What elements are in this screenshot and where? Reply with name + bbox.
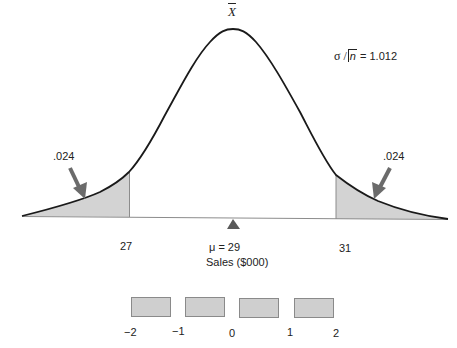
standard-error-annotation: σ /n = 1.012 (334, 49, 397, 64)
left-arrow-icon (70, 168, 87, 199)
tick-31: 31 (339, 242, 351, 254)
tick-mu: μ = 29 (209, 241, 240, 253)
left-tail-label: .024 (53, 150, 74, 162)
z-tick-neg2: −2 (124, 326, 137, 338)
x-axis-label: Sales ($000) (206, 256, 268, 268)
tick-27: 27 (120, 240, 132, 252)
z-box-2 (185, 297, 225, 317)
z-tick-0: 0 (229, 327, 235, 339)
root-n-label: n (348, 49, 357, 62)
xbar-title: X (228, 4, 236, 20)
z-tick-1: 1 (287, 326, 293, 338)
sigma-label: σ / (334, 49, 347, 63)
z-box-3 (239, 298, 279, 318)
standard-error-value: = 1.012 (360, 50, 397, 62)
z-box-1 (131, 297, 171, 317)
z-tick-neg1: −1 (172, 325, 185, 337)
xbar-symbol: X (228, 4, 236, 19)
right-tail-label: .024 (383, 150, 404, 162)
z-tick-2: 2 (333, 327, 339, 339)
mean-marker-icon (227, 219, 240, 229)
right-arrow-icon (372, 168, 390, 199)
z-box-4 (294, 298, 334, 318)
right-tail-shade (336, 175, 448, 219)
